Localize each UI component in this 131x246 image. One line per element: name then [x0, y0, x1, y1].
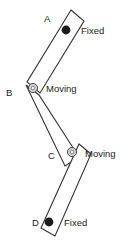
state-label-a-fixed: Fixed	[81, 25, 104, 36]
joint-b-moving-pivot-center	[31, 86, 35, 90]
point-label-d: D	[32, 217, 39, 228]
linkage-svg: A B C D Fixed Moving Moving Fixed	[0, 0, 131, 246]
state-label-b-moving: Moving	[46, 83, 77, 94]
point-label-c: C	[48, 150, 55, 161]
joint-c-moving-pivot-center	[70, 150, 74, 154]
point-label-b: B	[6, 87, 12, 98]
link-a-b	[27, 10, 84, 93]
state-label-d-fixed: Fixed	[64, 217, 87, 228]
point-label-a: A	[44, 13, 51, 24]
joint-a-fixed-pivot	[62, 26, 71, 35]
state-label-c-moving: Moving	[85, 148, 116, 159]
linkage-diagram: A B C D Fixed Moving Moving Fixed	[0, 0, 131, 246]
joint-d-fixed-pivot	[45, 218, 54, 227]
